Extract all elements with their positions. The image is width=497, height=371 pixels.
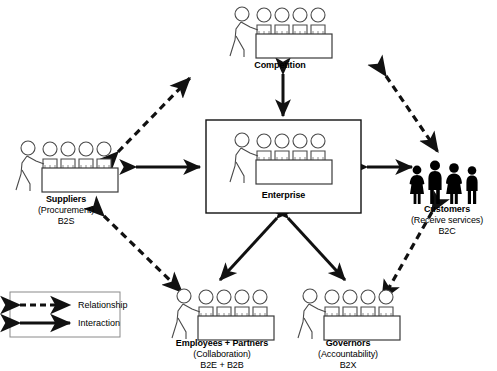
- competition-figure-group: [230, 7, 332, 58]
- edge-suppliers-employees: [104, 216, 182, 292]
- legend-box: [10, 292, 120, 337]
- node-label-employees: Employees + Partners (Collaboration) B2E…: [160, 338, 284, 371]
- employees-code: B2E + B2B: [160, 360, 284, 371]
- customers-subtitle: (Receive services): [398, 215, 496, 226]
- governors-figure-group: [298, 289, 400, 340]
- customers-figure-group: [410, 161, 478, 205]
- employees-subtitle: (Collaboration): [160, 349, 284, 360]
- enterprise-title: Enterprise: [206, 190, 361, 201]
- suppliers-subtitle: (Procurement): [6, 205, 126, 216]
- edge-enterprise-employees: [220, 218, 277, 280]
- governors-subtitle: (Accountability): [290, 349, 406, 360]
- node-label-enterprise: Enterprise: [206, 190, 361, 201]
- legend-label-relationship: Relationship: [78, 300, 128, 310]
- employees-title: Employees + Partners: [160, 338, 284, 349]
- diagram-vector-layer: [0, 0, 497, 371]
- node-label-suppliers: Suppliers (Procurement) B2S: [6, 194, 126, 227]
- suppliers-code: B2S: [6, 216, 126, 227]
- edge-competition-customers: [386, 76, 438, 152]
- governors-title: Governors: [290, 338, 406, 349]
- customers-title: Customers: [398, 204, 496, 215]
- suppliers-title: Suppliers: [6, 194, 126, 205]
- node-label-competition: Competition: [228, 60, 332, 71]
- suppliers-figure-group: [16, 141, 118, 192]
- node-label-customers: Customers (Receive services) B2C: [398, 204, 496, 237]
- node-label-governors: Governors (Accountability) B2X: [290, 338, 406, 371]
- edge-enterprise-governors: [288, 218, 345, 280]
- customers-code: B2C: [398, 226, 496, 237]
- competition-title: Competition: [228, 60, 332, 71]
- employees-figure-group: [172, 289, 274, 340]
- edge-suppliers-competition: [118, 78, 190, 152]
- governors-code: B2X: [290, 360, 406, 371]
- legend-label-interaction: Interaction: [78, 318, 120, 328]
